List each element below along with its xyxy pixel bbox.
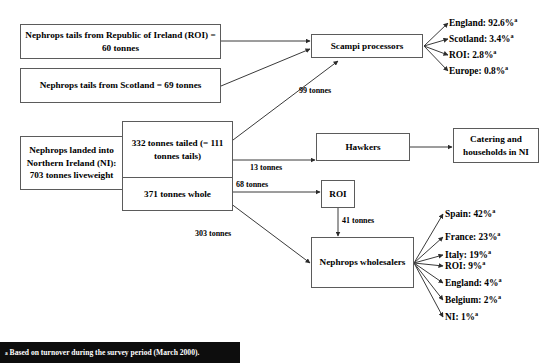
scampi-destination-england-label: England: 92.6%: [449, 18, 514, 28]
node-landed-ni: Nephrops landed into Northern Ireland (N…: [20, 136, 123, 190]
wholesaler-destination-belgium-label: Belgium: 2%: [445, 295, 498, 305]
node-catering: Catering and households in NI: [453, 128, 539, 163]
wholesaler-destination-france-label: France: 23%: [445, 232, 497, 242]
edge-label-to-roi: 68 tonnes: [236, 180, 268, 189]
footnote-marker: a: [510, 32, 513, 39]
node-tailed: 332 tonnes tailed (= 111 tonnes tails): [122, 121, 233, 177]
wholesaler-destination-belgium: Belgium: 2%a: [445, 293, 501, 305]
edge-label-whole-to-wholesalers: 303 tonnes: [195, 229, 231, 238]
footnote-marker: a: [493, 48, 496, 55]
node-hawkers: Hawkers: [316, 133, 410, 161]
footnote-marker: a: [514, 16, 517, 23]
scampi-destination-roi-label: ROI: 2.8%: [449, 50, 493, 60]
node-split-tailed-whole: 332 tonnes tailed (= 111 tonnes tails) 3…: [122, 121, 233, 211]
footnote-marker: a: [498, 293, 501, 300]
scampi-destination-scotland-label: Scotland: 3.4%: [449, 34, 510, 44]
footnote-marker: a: [505, 64, 508, 71]
nephrops-flow-diagram: Nephrops tails from Republic of Ireland …: [0, 0, 549, 363]
edge-label-to-scampi: 99 tonnes: [299, 86, 331, 95]
node-scampi-processors: Scampi processors: [311, 34, 423, 58]
scampi-destination-europe: Europe: 0.8%a: [449, 64, 508, 76]
footnote-marker: a: [482, 259, 485, 266]
node-tails-roi: Nephrops tails from Republic of Ireland …: [20, 24, 221, 59]
wholesaler-destination-ni-label: NI: 1%: [445, 312, 475, 322]
footnote-marker: a: [492, 207, 495, 214]
scampi-destination-england: England: 92.6%a: [449, 16, 517, 28]
node-wholesalers: Nephrops wholesalers: [311, 237, 414, 288]
wholesaler-destination-roi: ROI: 9%a: [445, 259, 485, 271]
footnote-marker: a: [475, 310, 478, 317]
edge-label-roi-to-wholesalers: 41 tonnes: [342, 216, 374, 225]
wholesaler-destination-england: England: 4%a: [445, 276, 502, 288]
scampi-destination-scotland: Scotland: 3.4%a: [449, 32, 514, 44]
footnote-marker: a: [498, 276, 501, 283]
scampi-destination-roi: ROI: 2.8%a: [449, 48, 496, 60]
wholesaler-destination-roi-label: ROI: 9%: [445, 261, 482, 271]
footnote-bar: a Based on turnover during the survey pe…: [0, 342, 240, 363]
footnote-text: Based on turnover during the survey peri…: [10, 348, 200, 357]
footnote-marker: a: [5, 350, 8, 356]
footnote-marker: a: [497, 230, 500, 237]
node-roi: ROI: [321, 180, 355, 208]
edge-label-to-hawkers: 13 tonnes: [250, 163, 282, 172]
node-tails-scotland: Nephrops tails from Scotland = 69 tonnes: [20, 68, 221, 103]
wholesaler-destination-spain-label: Spain: 42%: [445, 209, 492, 219]
footnote-marker: a: [488, 248, 491, 255]
wholesaler-destination-spain: Spain: 42%a: [445, 207, 495, 219]
scampi-destination-europe-label: Europe: 0.8%: [449, 66, 505, 76]
wholesaler-destination-ni: NI: 1%a: [445, 310, 478, 322]
wholesaler-destination-england-label: England: 4%: [445, 278, 498, 288]
node-whole: 371 tonnes whole: [122, 177, 233, 211]
wholesaler-destination-france: France: 23%a: [445, 230, 500, 242]
